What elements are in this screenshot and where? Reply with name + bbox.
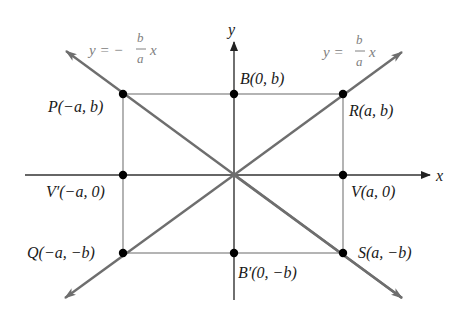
label-B-prime: B′(0, −b) — [238, 264, 297, 282]
asym-neg-suffix: x — [149, 42, 157, 58]
label-P: P(−a, b) — [47, 98, 103, 116]
point-S — [339, 249, 347, 257]
asym-pos-suffix: x — [368, 44, 376, 60]
asym-pos-num: b — [356, 32, 363, 47]
diagram-canvas: x y P(−a, b) B(0, b) R(a, b) V′(−a, 0) V… — [0, 0, 455, 319]
point-B — [230, 90, 238, 98]
x-axis-label: x — [435, 167, 443, 184]
asym-neg-prefix: y = − — [87, 42, 123, 58]
asym-pos-prefix: y = — [321, 44, 344, 60]
point-V-prime — [119, 171, 127, 179]
label-Q: Q(−a, −b) — [27, 244, 95, 262]
point-B-prime — [230, 249, 238, 257]
point-Q — [119, 249, 127, 257]
point-R — [339, 90, 347, 98]
label-S: S(a, −b) — [358, 244, 411, 262]
label-R: R(a, b) — [348, 102, 393, 120]
asym-neg-num: b — [137, 30, 144, 45]
label-B: B(0, b) — [240, 70, 284, 88]
diagram-svg: x y P(−a, b) B(0, b) R(a, b) V′(−a, 0) V… — [0, 0, 455, 319]
label-V-prime: V′(−a, 0) — [46, 183, 105, 201]
asymptote-label-negative: y = − b a x — [87, 30, 157, 66]
y-axis-label: y — [226, 21, 236, 39]
label-V: V(a, 0) — [351, 183, 395, 201]
point-P — [119, 90, 127, 98]
asymptote-label-positive: y = b a x — [321, 32, 376, 69]
asym-pos-den: a — [356, 54, 363, 69]
asym-neg-den: a — [137, 51, 144, 66]
point-V — [339, 171, 347, 179]
